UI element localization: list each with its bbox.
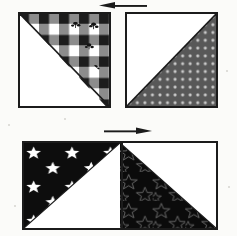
gingham-floral-fabric [19, 13, 110, 107]
gray-polka-dot-fabric [126, 13, 217, 107]
paper-speck [8, 124, 10, 126]
center-seam-divider [121, 143, 123, 228]
hst-unit-gingham[interactable] [18, 12, 111, 108]
diagram-canvas [0, 0, 237, 236]
pressing-arrow-right-icon [104, 126, 152, 137]
paper-speck [226, 70, 228, 72]
paper-speck [64, 118, 66, 120]
black-white-stars-fabric [24, 143, 120, 228]
hst-unit-outline-stars[interactable] [120, 143, 216, 228]
paper-speck [228, 186, 230, 188]
hst-unit-white-stars[interactable] [24, 143, 120, 228]
hst-unit-pair-frame [22, 141, 218, 230]
black-outline-stars-fabric [120, 143, 216, 228]
hst-unit-dots[interactable] [125, 12, 218, 108]
paper-speck [14, 205, 16, 207]
